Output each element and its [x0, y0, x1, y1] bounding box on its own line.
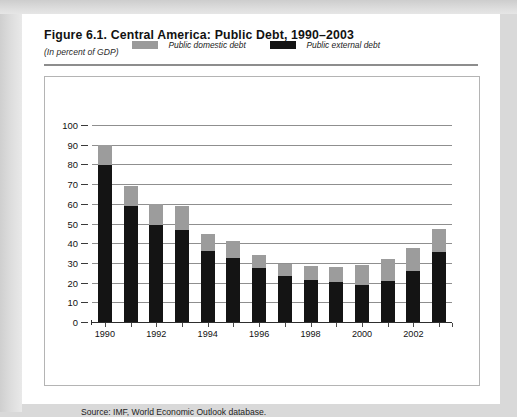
bar-segment-domestic-2001 — [381, 259, 395, 281]
y-axis-label-20: 20 — [68, 277, 78, 288]
bar-segment-external-1998 — [304, 280, 318, 322]
x-axis-tick-1998 — [311, 323, 312, 327]
gridline-30 — [92, 263, 452, 264]
source-note: Source: IMF, World Economic Outlook data… — [81, 407, 266, 417]
y-axis-label-30: 30 — [68, 257, 78, 268]
y-axis-tick-30 — [81, 263, 88, 264]
x-axis-tick-1992 — [156, 323, 157, 327]
plot-frame: 0102030405060708090100 Source: IMF, Worl… — [44, 76, 480, 386]
x-axis-tick-1990 — [105, 323, 106, 327]
bar-segment-domestic-1994 — [201, 234, 215, 251]
gridline-70 — [92, 184, 452, 185]
x-axis-tick-2000 — [362, 323, 363, 327]
x-axis-line — [92, 322, 452, 323]
y-axis-tick-80 — [81, 164, 88, 165]
y-axis-label-10: 10 — [68, 297, 78, 308]
x-axis-tick-1994 — [208, 323, 209, 327]
y-axis-label-0: 0 — [73, 317, 78, 328]
legend-swatch-domestic-icon — [132, 41, 158, 49]
y-axis-label-80: 80 — [68, 159, 78, 170]
x-axis-tick-1991 — [131, 323, 132, 327]
chart-legend: Public domestic debt Public external deb… — [132, 35, 382, 47]
x-axis-label-1996: 1996 — [249, 329, 269, 339]
page-top-margin-shading — [0, 0, 517, 14]
legend-item-public-external-debt: Public external debt — [270, 35, 380, 47]
y-axis-tick-60 — [81, 204, 88, 205]
bar-segment-external-1996 — [252, 268, 266, 322]
bar-segment-domestic-2003 — [432, 229, 446, 252]
bar-segment-external-2000 — [355, 285, 369, 322]
y-axis-tick-40 — [81, 243, 88, 244]
gridline-50 — [92, 224, 452, 225]
x-axis-tick-1995 — [233, 323, 234, 327]
bar-segment-domestic-1992 — [149, 204, 163, 226]
bar-segment-external-1994 — [201, 251, 215, 322]
bar-segment-domestic-1991 — [124, 186, 138, 206]
y-axis-tick-70 — [81, 184, 88, 185]
bar-segment-external-1995 — [226, 258, 240, 322]
bar-segment-external-2001 — [381, 281, 395, 322]
bar-segment-external-1997 — [278, 276, 292, 322]
bar-segment-domestic-1997 — [278, 264, 292, 276]
x-axis-tick-2001 — [388, 323, 389, 327]
x-axis-label-1994: 1994 — [198, 329, 218, 339]
x-axis-tick-1993 — [182, 323, 183, 327]
gridline-40 — [92, 243, 452, 244]
title-divider — [44, 64, 478, 66]
bar-segment-domestic-1998 — [304, 266, 318, 280]
y-axis-label-40: 40 — [68, 238, 78, 249]
y-axis-tick-50 — [81, 224, 88, 225]
y-axis-origin-tick — [91, 320, 92, 325]
bar-segment-domestic-1995 — [226, 241, 240, 258]
bar-segment-domestic-1996 — [252, 255, 266, 268]
y-axis-tick-0 — [81, 322, 88, 323]
x-axis-label-2002: 2002 — [403, 329, 423, 339]
y-axis-tick-90 — [81, 145, 88, 146]
x-axis-label-1998: 1998 — [300, 329, 320, 339]
x-axis-tick-2003 — [439, 323, 440, 327]
x-axis-tick-1997 — [285, 323, 286, 327]
bar-segment-domestic-1993 — [175, 206, 189, 231]
legend-label-external: Public external debt — [306, 40, 380, 50]
y-axis-tick-20 — [81, 283, 88, 284]
x-axis-label-1990: 1990 — [95, 329, 115, 339]
y-axis-tick-100 — [81, 125, 88, 126]
bar-segment-external-1991 — [124, 206, 138, 322]
bar-segment-external-1993 — [175, 230, 189, 322]
page-left-margin-shading — [0, 0, 22, 412]
x-axis-label-1992: 1992 — [146, 329, 166, 339]
x-axis-tick-1996 — [259, 323, 260, 327]
bar-segment-external-1990 — [98, 165, 112, 322]
y-axis-label-70: 70 — [68, 179, 78, 190]
gridline-10 — [92, 302, 452, 303]
bar-segment-external-1999 — [329, 282, 343, 322]
plot-area: 0102030405060708090100 — [92, 125, 452, 322]
gridline-90 — [92, 145, 452, 146]
figure-card: Figure 6.1. Central America: Public Debt… — [22, 14, 500, 404]
bar-segment-domestic-2002 — [406, 248, 420, 271]
legend-item-public-domestic-debt: Public domestic debt — [132, 35, 246, 47]
bar-segment-external-2003 — [432, 252, 446, 322]
figure-title: Figure 6.1. Central America: Public Debt… — [44, 28, 354, 42]
bar-segment-domestic-1990 — [98, 145, 112, 166]
legend-label-domestic: Public domestic debt — [168, 40, 245, 50]
gridline-20 — [92, 283, 452, 284]
x-axis-tick-1999 — [336, 323, 337, 327]
x-axis-tick-2002 — [413, 323, 414, 327]
bar-segment-external-1992 — [149, 225, 163, 322]
gridline-100 — [92, 125, 452, 126]
x-axis-end-tick — [452, 323, 453, 327]
y-axis-label-90: 90 — [68, 139, 78, 150]
y-axis-label-50: 50 — [68, 218, 78, 229]
y-axis-label-100: 100 — [62, 120, 78, 131]
bar-segment-domestic-2000 — [355, 265, 369, 285]
y-axis-tick-10 — [81, 302, 88, 303]
y-axis-label-60: 60 — [68, 198, 78, 209]
gridline-80 — [92, 164, 452, 165]
bar-segment-external-2002 — [406, 271, 420, 322]
bar-segment-domestic-1999 — [329, 267, 343, 282]
figure-subtitle: (In percent of GDP) — [44, 47, 119, 57]
gridline-60 — [92, 204, 452, 205]
legend-swatch-external-icon — [270, 41, 296, 49]
